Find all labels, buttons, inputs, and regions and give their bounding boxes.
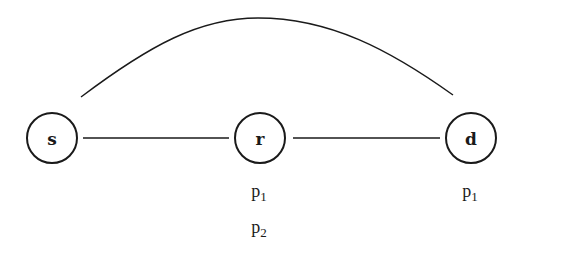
node-d-label: d — [465, 129, 477, 149]
node-s: s — [27, 113, 77, 163]
node-d-path-label-1: p1 — [462, 181, 478, 204]
node-d: d — [446, 113, 496, 163]
node-r-label: r — [256, 129, 266, 149]
node-r-path-label-2: p2 — [251, 217, 267, 240]
node-r-path-label-1: p1 — [251, 181, 267, 204]
node-r: r — [235, 113, 285, 163]
node-s-label: s — [47, 129, 57, 149]
network-diagram: s r d p1 p2 p1 — [0, 0, 587, 253]
edge-s-d-arc — [81, 18, 453, 97]
